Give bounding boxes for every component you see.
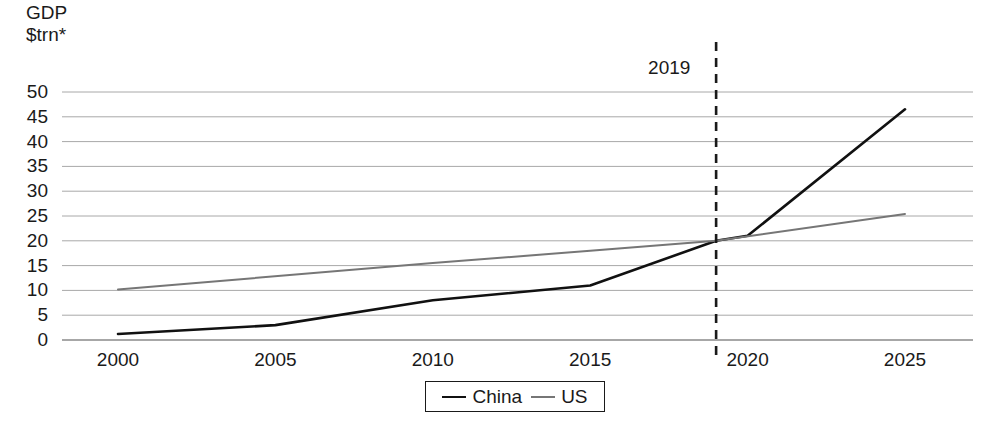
- chart-legend: China US: [425, 381, 605, 412]
- legend-item-china: China: [442, 387, 522, 406]
- y-tick-label: 35: [0, 156, 48, 175]
- y-tick-label: 45: [0, 107, 48, 126]
- legend-label-china: China: [472, 387, 522, 406]
- y-tick-label: 30: [0, 181, 48, 200]
- y-tick-label: 50: [0, 82, 48, 101]
- x-tick-label: 2005: [235, 350, 315, 369]
- x-tick-label: 2000: [78, 350, 158, 369]
- gdp-line-chart: GDP $trn* 2019 05101520253035404550 2000…: [0, 0, 1004, 433]
- y-tick-label: 25: [0, 206, 48, 225]
- y-tick-label: 5: [0, 305, 48, 324]
- series-line-us: [118, 214, 905, 289]
- gridlines: [62, 92, 973, 340]
- y-tick-label: 20: [0, 231, 48, 250]
- y-tick-label: 15: [0, 256, 48, 275]
- x-tick-label: 2010: [393, 350, 473, 369]
- legend-item-us: US: [531, 387, 587, 406]
- data-series: [118, 109, 905, 334]
- y-tick-label: 10: [0, 280, 48, 299]
- legend-label-us: US: [561, 387, 587, 406]
- x-tick-label: 2015: [550, 350, 630, 369]
- y-tick-label: 0: [0, 330, 48, 349]
- legend-line-china-icon: [442, 396, 466, 398]
- series-line-china: [118, 109, 905, 334]
- x-tick-label: 2020: [708, 350, 788, 369]
- legend-line-us-icon: [531, 396, 555, 398]
- y-tick-label: 40: [0, 132, 48, 151]
- x-tick-label: 2025: [865, 350, 945, 369]
